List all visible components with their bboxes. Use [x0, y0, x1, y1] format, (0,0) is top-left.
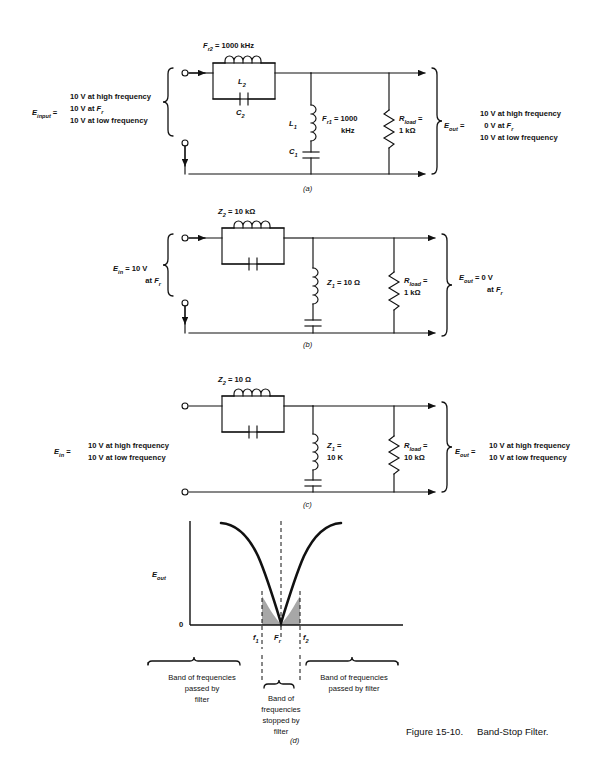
figure-band-stop-filter: Fr2 = 1000 kHz L2 C2 L1 C1 Fr1 = 1000 kH…	[0, 0, 606, 759]
figure-caption-number: Figure 15-10.	[406, 726, 463, 737]
panel-d-tick-f2: f2	[303, 633, 309, 646]
panel-c-output-line-2: 10 V at low frequency	[489, 453, 567, 463]
panel-b-identifier: (b)	[303, 340, 312, 350]
panel-d-right-band-line-1: Band of frequencies	[292, 673, 416, 683]
panel-b-tank-impedance-label: Z2 = 10 kΩ	[218, 207, 255, 220]
panel-d-y-axis-label: Eout	[152, 570, 166, 583]
panel-a-inductor-l2-label: L2	[238, 77, 246, 90]
panel-a-input-label: Einput =	[32, 108, 57, 121]
panel-a-series-resonance-unit: kHz	[341, 126, 355, 136]
panel-a-output-label: Eout =	[444, 121, 464, 134]
panel-c-output-label: Eout =	[455, 447, 475, 460]
panel-d-tick-f1: f1	[253, 633, 259, 646]
panel-a-input-line-1: 10 V at high frequency	[70, 92, 151, 102]
panel-c-output-line-1: 10 V at high frequency	[489, 441, 570, 451]
panel-d-mid-band-line-4: filter	[241, 727, 321, 737]
panel-d-tick-fr: Fr	[274, 633, 281, 646]
panel-a-output-line-1: 10 V at high frequency	[480, 109, 561, 119]
panel-a-identifier: (a)	[303, 184, 312, 194]
figure-caption-title: Band-Stop Filter.	[477, 726, 548, 737]
panel-c-input-line-2: 10 V at low frequency	[88, 453, 166, 463]
panel-c-series-impedance-value: 10 K	[327, 453, 343, 463]
panel-c-identifier: (c)	[303, 500, 312, 510]
panel-c-input-label: Ein =	[54, 447, 71, 460]
panel-a-tank-resonance-label: Fr2 = 1000 kHz	[203, 41, 254, 54]
panel-a-capacitor-c1-label: C1	[289, 147, 298, 160]
panel-d-mid-band-line-3: stopped by	[241, 716, 321, 726]
panel-d-left-band-line-2: passed by	[142, 684, 262, 694]
panel-d-identifier: (d)	[290, 736, 299, 746]
panel-a-input-line-3: 10 V at low frequency	[70, 116, 148, 126]
panel-c-input-line-1: 10 V at high frequency	[88, 441, 169, 451]
panel-b-input-line-2: at Fr	[113, 276, 161, 289]
panel-b-series-impedance-label: Z1 = 10 Ω	[327, 278, 360, 291]
panel-d-mid-band-line-1: Band of	[241, 694, 321, 704]
panel-a-output-line-3: 10 V at low frequency	[480, 133, 558, 143]
panel-d-response-graph	[148, 521, 403, 688]
panel-b-rload-value: 1 kΩ	[404, 288, 421, 298]
panel-a-capacitor-c2-label: C2	[236, 108, 245, 121]
panel-d-left-band-line-1: Band of frequencies	[142, 673, 262, 683]
panel-a-rload-value: 1 kΩ	[399, 126, 416, 136]
panel-c-tank-impedance-label: Z2 = 10 Ω	[218, 375, 251, 388]
panel-a-inductor-l1-label: L1	[289, 119, 297, 132]
panel-d-y-zero-tick: 0	[179, 620, 183, 630]
panel-d-mid-band-line-2: frequencies	[241, 705, 321, 715]
panel-d-right-band-line-2: passed by filter	[292, 684, 416, 694]
panel-b-output-line-2: at Fr	[487, 285, 503, 298]
panel-c-rload-value: 10 kΩ	[404, 453, 425, 463]
